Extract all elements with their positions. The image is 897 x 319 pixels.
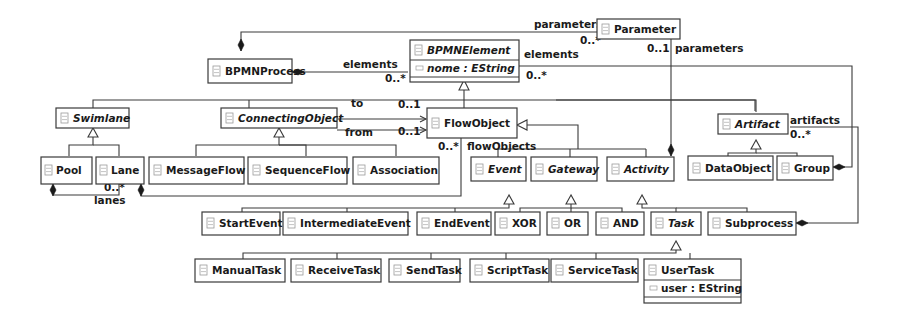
svg-text:EndEvent: EndEvent xyxy=(434,217,490,229)
svg-text:Activity: Activity xyxy=(623,163,670,175)
class-icon xyxy=(475,265,482,275)
class-icon xyxy=(213,66,220,76)
class-icon xyxy=(536,164,543,174)
generalization-arrow-icon xyxy=(566,195,576,204)
class-icon xyxy=(358,165,365,175)
svg-text:Group: Group xyxy=(794,162,830,174)
svg-text:nome : EString: nome : EString xyxy=(427,62,515,74)
class-icon xyxy=(602,24,609,34)
class-connectingobject[interactable]: ConnectingObject xyxy=(221,108,344,128)
generalization-arrow-icon xyxy=(671,241,681,250)
svg-text:Event: Event xyxy=(488,163,523,175)
class-intermediateevent[interactable]: IntermediateEvent xyxy=(283,212,411,235)
class-bpmnelement[interactable]: BPMNElement nome : EString xyxy=(410,40,519,82)
svg-text:FlowObject: FlowObject xyxy=(444,117,510,129)
class-sendtask[interactable]: SendTask xyxy=(389,259,463,282)
class-icon xyxy=(500,218,507,228)
class-receivetask[interactable]: ReceiveTask xyxy=(291,259,381,282)
svg-text:elements: elements xyxy=(524,48,579,60)
svg-text:Swimlane: Swimlane xyxy=(73,112,130,124)
svg-text:0..*: 0..* xyxy=(526,69,547,81)
svg-text:parameters: parameters xyxy=(675,42,744,54)
class-subprocess[interactable]: Subprocess xyxy=(708,212,796,235)
svg-text:artifacts: artifacts xyxy=(790,114,840,126)
svg-text:Lane: Lane xyxy=(111,164,139,176)
svg-text:Association: Association xyxy=(370,164,438,176)
class-manualtask[interactable]: ManualTask xyxy=(195,259,285,282)
bpmn-class-diagram: parameters 0..* elements 0..* elements 0… xyxy=(0,0,897,319)
svg-text:IntermediateEvent: IntermediateEvent xyxy=(300,217,411,229)
class-usertask[interactable]: UserTask user : EString xyxy=(644,259,742,303)
generalization-arrow-icon xyxy=(637,195,647,204)
class-icon xyxy=(656,218,663,228)
class-lane[interactable]: Lane xyxy=(96,157,144,184)
class-icon xyxy=(200,265,207,275)
composition-diamond-icon xyxy=(833,164,845,170)
svg-text:0..*: 0..* xyxy=(790,128,811,140)
class-event[interactable]: Event xyxy=(471,157,526,181)
attribute-icon xyxy=(650,286,657,290)
class-icon xyxy=(288,218,295,228)
class-gateway[interactable]: Gateway xyxy=(531,157,600,181)
class-icon xyxy=(556,265,563,275)
class-xor[interactable]: XOR xyxy=(495,212,540,235)
class-icon xyxy=(100,165,107,175)
class-icon xyxy=(601,218,608,228)
class-startevent[interactable]: StartEvent xyxy=(202,212,283,235)
svg-text:OR: OR xyxy=(564,217,581,229)
class-and[interactable]: AND xyxy=(596,212,644,235)
class-task[interactable]: Task xyxy=(651,212,701,235)
svg-text:DataObject: DataObject xyxy=(705,162,771,174)
class-bpmnprocess[interactable]: BPMNProcess xyxy=(208,59,306,83)
class-scripttask[interactable]: ScriptTask xyxy=(470,259,549,282)
composition-diamond-icon xyxy=(238,39,244,51)
class-parameter[interactable]: Parameter xyxy=(597,19,680,39)
class-icon xyxy=(394,265,401,275)
svg-text:user : EString: user : EString xyxy=(661,282,742,294)
svg-text:0..1: 0..1 xyxy=(398,125,421,137)
class-flowobject[interactable]: FlowObject xyxy=(427,108,517,138)
class-messageflow[interactable]: MessageFlow xyxy=(149,157,246,184)
class-swimlane[interactable]: Swimlane xyxy=(56,108,130,128)
composition-diamond-icon xyxy=(50,184,56,196)
class-icon xyxy=(226,113,233,123)
svg-text:0..*: 0..* xyxy=(385,72,406,84)
svg-text:ManualTask: ManualTask xyxy=(212,264,282,276)
class-association[interactable]: Association xyxy=(353,157,439,184)
svg-text:Artifact: Artifact xyxy=(734,118,781,130)
composition-diamond-icon xyxy=(796,220,808,226)
class-sequenceflow[interactable]: SequenceFlow xyxy=(248,157,351,184)
class-or[interactable]: OR xyxy=(547,212,588,235)
svg-text:Pool: Pool xyxy=(56,164,82,176)
class-artifact[interactable]: Artifact xyxy=(718,114,788,134)
class-icon xyxy=(782,163,789,173)
svg-text:XOR: XOR xyxy=(512,217,537,229)
class-icon xyxy=(693,163,700,173)
svg-text:from: from xyxy=(345,126,373,138)
svg-text:flowObjects: flowObjects xyxy=(467,140,536,152)
svg-text:SendTask: SendTask xyxy=(406,264,463,276)
class-pool[interactable]: Pool xyxy=(41,157,92,184)
svg-text:BPMNProcess: BPMNProcess xyxy=(225,65,306,77)
generalization-arrow-icon xyxy=(751,140,761,149)
svg-text:ServiceTask: ServiceTask xyxy=(568,264,639,276)
svg-text:Parameter: Parameter xyxy=(614,23,677,35)
svg-text:0..1: 0..1 xyxy=(647,42,670,54)
class-activity[interactable]: Activity xyxy=(607,157,674,181)
svg-text:0..*: 0..* xyxy=(438,140,459,152)
composition-diamond-icon xyxy=(138,184,144,196)
class-group[interactable]: Group xyxy=(777,156,833,180)
class-icon xyxy=(432,118,439,128)
svg-text:0..1: 0..1 xyxy=(398,98,421,110)
class-endevent[interactable]: EndEvent xyxy=(417,212,491,235)
svg-text:lanes: lanes xyxy=(94,194,126,206)
svg-text:BPMNElement: BPMNElement xyxy=(427,44,511,56)
gen-bpmnelement-bus xyxy=(93,100,755,111)
svg-text:to: to xyxy=(351,97,363,109)
class-dataobject[interactable]: DataObject xyxy=(688,156,773,180)
svg-text:MessageFlow: MessageFlow xyxy=(166,164,246,176)
svg-text:Gateway: Gateway xyxy=(548,163,600,175)
class-icon xyxy=(713,218,720,228)
svg-text:UserTask: UserTask xyxy=(661,264,715,276)
class-servicetask[interactable]: ServiceTask xyxy=(551,259,639,282)
